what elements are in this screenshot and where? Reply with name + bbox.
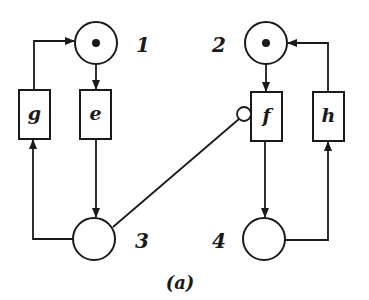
place-3 bbox=[73, 218, 115, 260]
place-1-label: 1 bbox=[136, 33, 150, 57]
transition-f: f bbox=[251, 92, 282, 141]
transition-h-label: h bbox=[322, 104, 336, 126]
place-4 bbox=[243, 218, 285, 260]
transition-e: e bbox=[80, 90, 111, 139]
inhibitor-circle-icon bbox=[237, 107, 251, 121]
arc-h-to-2 bbox=[288, 43, 328, 92]
transition-e-label: e bbox=[89, 102, 101, 124]
place-1 bbox=[75, 22, 117, 64]
place-3-label: 3 bbox=[135, 229, 149, 253]
transition-g-label: g bbox=[28, 102, 41, 124]
token-dot bbox=[262, 39, 270, 47]
token-dot bbox=[92, 39, 100, 47]
arc-3-to-g bbox=[33, 140, 73, 239]
place-2 bbox=[245, 22, 287, 64]
transition-g: g bbox=[19, 90, 50, 139]
petri-net-diagram: 1 2 3 4 g e f h bbox=[0, 0, 369, 300]
arc-4-to-h bbox=[285, 142, 328, 240]
figure-caption: (a) bbox=[166, 272, 195, 293]
place-2-label: 2 bbox=[211, 33, 226, 57]
arc-3-to-f-inhibitor bbox=[113, 119, 239, 227]
place-4-label: 4 bbox=[212, 229, 226, 253]
transition-h: h bbox=[313, 92, 344, 141]
arc-g-to-1 bbox=[34, 41, 74, 90]
